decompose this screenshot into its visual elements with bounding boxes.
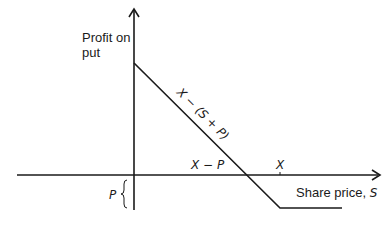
premium-brace [121, 180, 127, 208]
payoff-line-label: X − (S + P) [173, 84, 232, 142]
x-axis-label-var: S [370, 186, 378, 200]
premium-label: P [109, 188, 117, 202]
put-profit-diagram: Profit on put Share price, S X − (S + P)… [0, 0, 392, 226]
x-axis-label-prefix: Share price, [296, 185, 370, 200]
y-axis-label-line2: put [82, 45, 100, 60]
y-axis-label-line1: Profit on [82, 30, 130, 45]
x-axis-label: Share price, S [296, 185, 378, 200]
strike-label: X [275, 158, 285, 172]
breakeven-label: X − P [190, 158, 225, 172]
